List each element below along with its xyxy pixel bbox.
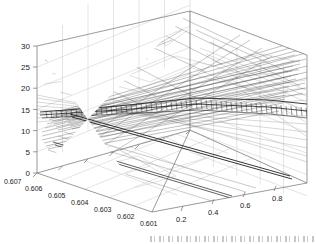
x-tick-0606: 0.606 <box>25 185 43 192</box>
x-tick-0602: 0.602 <box>117 213 135 220</box>
z-tick-5: 5 <box>26 148 31 157</box>
y-tick-04: 0.4 <box>208 208 218 217</box>
z-tick-15: 15 <box>21 106 30 115</box>
caption-strip-truncated <box>150 236 314 242</box>
plot-canvas: 0 5 10 15 20 25 30 0.607 0.606 0.605 0.6… <box>0 0 316 244</box>
x-tick-0605: 0.605 <box>48 192 66 199</box>
z-tick-25: 25 <box>21 63 30 72</box>
x-tick-0604: 0.604 <box>71 199 89 206</box>
x-tick-0601: 0.601 <box>140 220 158 227</box>
y-tick-08: 0.8 <box>272 194 282 203</box>
plot-background <box>0 0 316 244</box>
x-tick-0607: 0.607 <box>4 178 22 185</box>
z-tick-0: 0 <box>26 169 31 178</box>
y-tick-06: 0.6 <box>240 201 250 210</box>
z-tick-10: 10 <box>21 127 30 136</box>
figure-3d-plot: 0 5 10 15 20 25 30 0.607 0.606 0.605 0.6… <box>0 0 316 244</box>
z-tick-30: 30 <box>21 42 30 51</box>
y-tick-02: 0.2 <box>176 215 186 224</box>
x-tick-0603: 0.603 <box>94 206 112 213</box>
z-tick-20: 20 <box>21 84 30 93</box>
